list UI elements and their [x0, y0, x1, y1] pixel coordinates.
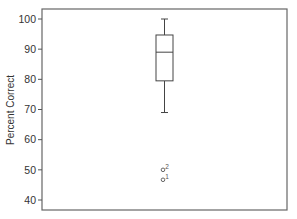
y-tick-label-50: 50 [24, 164, 36, 176]
y-tick-label-60: 60 [24, 133, 36, 145]
outlier-point-1 [161, 178, 165, 182]
outlier-label-2: 2 [165, 163, 169, 170]
y-tick-label-100: 100 [18, 13, 36, 25]
y-axis-label: Percent Correct [5, 75, 16, 145]
y-tick-label-80: 80 [24, 73, 36, 85]
outlier-point-2 [161, 168, 165, 172]
box-plot-chart: 405060708090100 Percent Correct 21 [0, 0, 297, 219]
iqr-box [156, 35, 173, 81]
outlier-label-1: 1 [165, 173, 169, 180]
y-tick-label-90: 90 [24, 43, 36, 55]
box-group: 21 [156, 19, 173, 182]
y-tick-label-40: 40 [24, 194, 36, 206]
y-tick-label-70: 70 [24, 103, 36, 115]
